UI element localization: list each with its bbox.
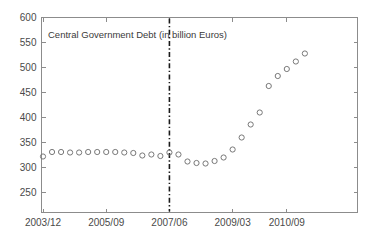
data-point [104,149,109,154]
data-point [113,149,118,154]
x-tick-label-2010-09: 2010/09 [269,217,306,228]
data-point [212,158,217,163]
data-point [185,159,190,164]
y-tick-label-250: 250 [20,187,37,198]
y-tick-label-400: 400 [20,112,37,123]
data-point [203,161,208,166]
y-tick-label-500: 500 [20,62,37,73]
data-point [293,59,298,64]
y-tick-label-550: 550 [20,37,37,48]
data-point [77,150,82,155]
data-point [275,73,280,78]
chart-title: Central Government Debt (in billion Euro… [48,29,227,40]
axes-border [42,18,358,213]
data-point [248,122,253,127]
chart-canvas: 250300350400450500550600 2003/122005/092… [0,0,378,246]
data-point [158,153,163,158]
data-point [58,149,63,154]
data-point [230,147,235,152]
data-point [284,66,289,71]
data-point [67,150,72,155]
data-series-markers [40,51,307,166]
data-point [221,155,226,160]
data-point [49,149,54,154]
y-tick-label-300: 300 [20,162,37,173]
data-point [131,150,136,155]
y-tick-label-350: 350 [20,137,37,148]
data-point [149,152,154,157]
data-point [95,149,100,154]
data-point [302,51,307,56]
x-tick-label-2005-09: 2005/09 [88,217,125,228]
data-point [266,83,271,88]
data-point [140,153,145,158]
y-tick-label-450: 450 [20,87,37,98]
data-point [257,110,262,115]
x-tick-label-2009-03: 2009/03 [215,217,252,228]
x-axis: 2003/122005/092007/062009/032010/09 [25,18,358,228]
data-point [194,160,199,165]
x-tick-label-2007-06: 2007/06 [151,217,188,228]
x-tick-label-2003-12: 2003/12 [25,217,62,228]
plot-frame [42,18,358,213]
data-point [122,150,127,155]
data-point [239,135,244,140]
chart-container: 250300350400450500550600 2003/122005/092… [0,0,378,246]
data-point [176,152,181,157]
y-tick-label-600: 600 [20,12,37,23]
data-point [86,149,91,154]
